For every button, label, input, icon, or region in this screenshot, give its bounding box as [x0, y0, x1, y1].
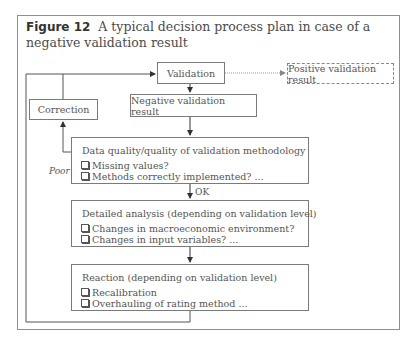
- reaction-item-1: Recalibration: [81, 287, 157, 298]
- positive-result-node: Positive validation result: [287, 63, 394, 84]
- data-quality-item-1: Missing values?: [81, 160, 169, 171]
- checkbox-icon: [81, 235, 89, 243]
- data-quality-node: Data quality/quality of validation metho…: [71, 137, 309, 184]
- validation-label: Validation: [167, 68, 215, 79]
- reaction-title: Reaction (depending on validation level): [82, 272, 277, 283]
- checkbox-icon: [81, 299, 89, 307]
- detailed-analysis-item-2: Changes in input variables? ...: [81, 234, 238, 245]
- edge-label-ok: OK: [195, 187, 209, 197]
- correction-label: Correction: [38, 104, 90, 115]
- checkbox-icon: [81, 224, 89, 232]
- validation-node: Validation: [157, 62, 225, 84]
- detailed-analysis-node: Detailed analysis (depending on validati…: [71, 200, 309, 247]
- detailed-analysis-title: Detailed analysis (depending on validati…: [82, 208, 317, 219]
- negative-result-node: Negative validation result: [130, 94, 257, 117]
- checkbox-icon: [81, 288, 89, 296]
- correction-node: Correction: [29, 99, 98, 120]
- checkbox-icon: [81, 172, 89, 180]
- reaction-item-2: Overhauling of rating method ...: [81, 298, 248, 309]
- reaction-node: Reaction (depending on validation level)…: [71, 264, 309, 311]
- checkbox-icon: [81, 161, 89, 169]
- detailed-analysis-item-1: Changes in macroeconomic environment?: [81, 223, 294, 234]
- negative-result-label: Negative validation result: [131, 95, 256, 117]
- edge-label-poor: Poor: [49, 166, 70, 176]
- positive-result-label: Positive validation result: [288, 63, 393, 85]
- data-quality-item-2: Methods correctly implemented? ...: [81, 171, 264, 182]
- data-quality-title: Data quality/quality of validation metho…: [82, 145, 305, 156]
